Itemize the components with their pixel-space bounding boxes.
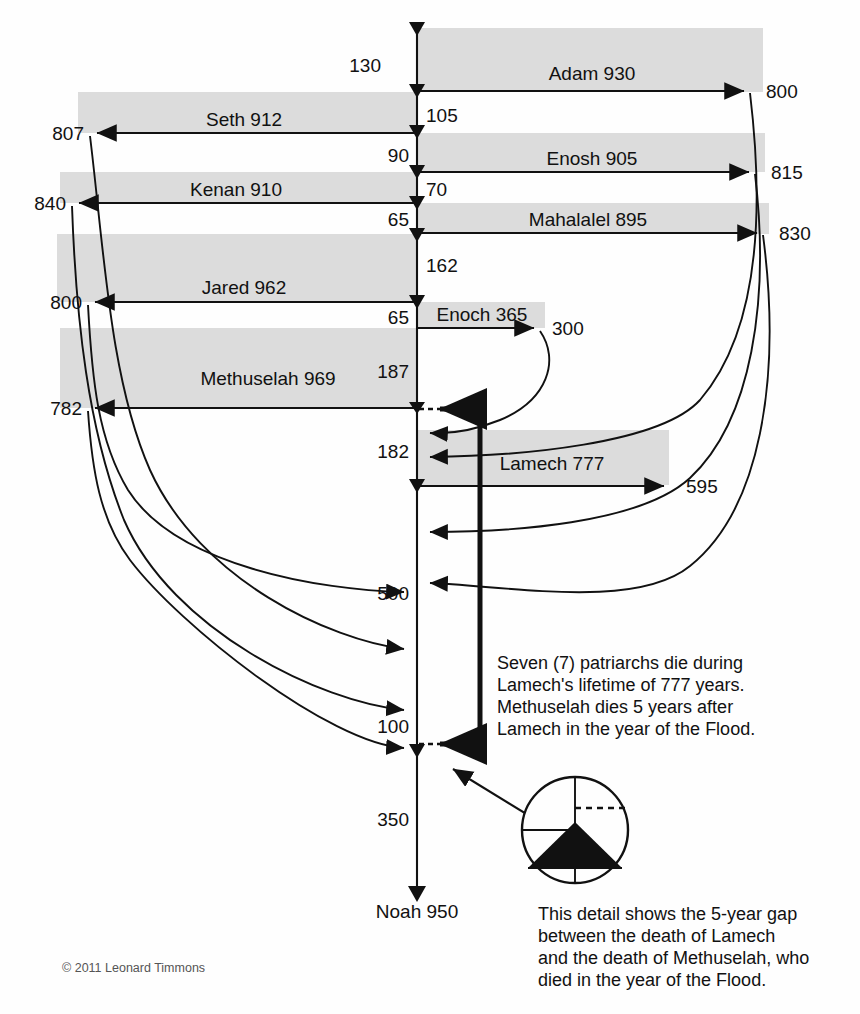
death-label-jared-800: 800 (50, 292, 82, 313)
label-methuselah: Methuselah 969 (200, 368, 335, 389)
death-label-lamech-595: 595 (686, 476, 718, 497)
label-noah: Noah 950 (376, 901, 458, 922)
diagram-canvas: 130 105 90 70 65 162 65 187 182 500 100 … (0, 0, 860, 1014)
interval-65a: 65 (388, 209, 409, 230)
caption-line-4: died in the year of the Flood. (538, 970, 766, 990)
patriarch-timeline-svg: 130 105 90 70 65 162 65 187 182 500 100 … (0, 0, 860, 1014)
label-jared: Jared 962 (202, 277, 287, 298)
interval-500: 500 (377, 583, 409, 604)
death-label-kenan-840: 840 (34, 193, 66, 214)
death-label-enosh-815: 815 (771, 162, 803, 183)
label-seth: Seth 912 (206, 109, 282, 130)
label-enoch: Enoch 365 (437, 304, 528, 325)
label-kenan: Kenan 910 (190, 179, 282, 200)
death-label-enoch-300: 300 (552, 318, 584, 339)
death-label-adam-800: 800 (766, 81, 798, 102)
death-label-mahalalel-830: 830 (779, 223, 811, 244)
interval-65b: 65 (388, 307, 409, 328)
label-lamech: Lamech 777 (500, 453, 605, 474)
death-label-seth-807: 807 (52, 123, 84, 144)
interval-105: 105 (426, 105, 458, 126)
label-mahalalel: Mahalalel 895 (529, 209, 647, 230)
note-line-4: Lamech in the year of the Flood. (497, 719, 755, 739)
caption-line-3: and the death of Methuselah, who (538, 948, 809, 968)
note-line-3: Methuselah dies 5 years after (497, 697, 733, 717)
interval-182: 182 (377, 441, 409, 462)
interval-130: 130 (349, 55, 381, 76)
copyright-notice: © 2011 Leonard Timmons (62, 961, 205, 975)
interval-90: 90 (388, 145, 409, 166)
caption-line-2: between the death of Lamech (538, 926, 775, 946)
note-line-2: Lamech's lifetime of 777 years. (497, 675, 745, 695)
interval-100: 100 (377, 716, 409, 737)
interval-70: 70 (426, 179, 447, 200)
interval-187: 187 (377, 361, 409, 382)
interval-350: 350 (377, 809, 409, 830)
note-line-1: Seven (7) patriarchs die during (497, 653, 743, 673)
label-adam: Adam 930 (549, 63, 636, 84)
death-label-methuselah-782: 782 (50, 398, 82, 419)
caption-line-1: This detail shows the 5-year gap (538, 904, 797, 924)
label-enosh: Enosh 905 (547, 148, 638, 169)
interval-162: 162 (426, 255, 458, 276)
